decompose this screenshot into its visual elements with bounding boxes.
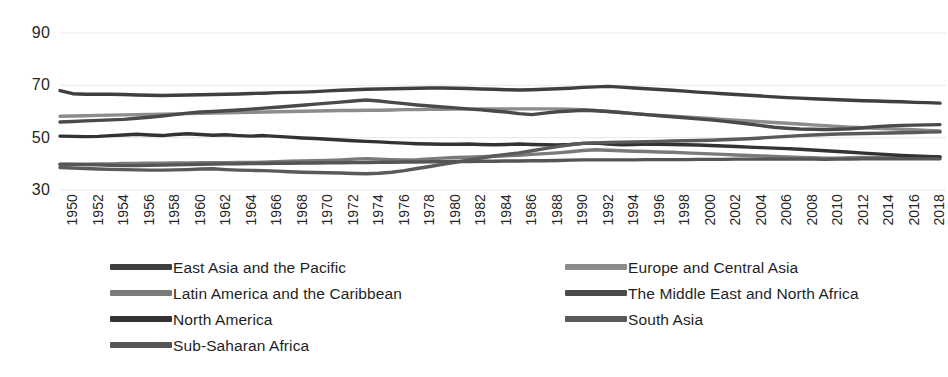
x-tick-label-1986: 1986 <box>524 194 538 226</box>
legend-label: Sub-Saharan Africa <box>173 337 309 354</box>
x-tick-label-2014: 2014 <box>881 194 895 226</box>
legend-item[interactable]: Sub-Saharan Africa <box>110 334 309 356</box>
legend-item[interactable]: Europe and Central Asia <box>565 256 798 278</box>
legend-swatch-icon <box>110 342 172 348</box>
legend-swatch-icon <box>110 290 172 296</box>
x-tick-label-2010: 2010 <box>830 194 844 226</box>
x-tick-label-2016: 2016 <box>907 194 921 226</box>
x-tick-label-1974: 1974 <box>371 194 385 226</box>
x-tick-label-1960: 1960 <box>193 194 207 226</box>
x-tick-label-1968: 1968 <box>295 194 309 226</box>
legend-item[interactable]: South Asia <box>565 308 703 330</box>
x-tick-label-1982: 1982 <box>473 194 487 226</box>
x-tick-label-1966: 1966 <box>269 194 283 226</box>
legend-label: Latin America and the Caribbean <box>173 285 402 302</box>
legend-swatch-icon <box>565 316 627 322</box>
legend-label: The Middle East and North Africa <box>628 285 859 302</box>
x-tick-label-2008: 2008 <box>805 194 819 226</box>
x-tick-label-1994: 1994 <box>626 194 640 226</box>
x-tick-label-1970: 1970 <box>320 194 334 226</box>
x-axis: 1950195219541956195819601962196419661968… <box>0 190 948 254</box>
legend-item[interactable]: Latin America and the Caribbean <box>110 282 402 304</box>
legend-swatch-icon <box>110 264 172 270</box>
chart-legend: East Asia and the PacificEurope and Cent… <box>0 256 948 376</box>
y-axis: 30507090 <box>0 0 50 200</box>
series-line-5 <box>60 132 940 174</box>
x-tick-label-1998: 1998 <box>677 194 691 226</box>
x-tick-label-2006: 2006 <box>779 194 793 226</box>
x-tick-label-1976: 1976 <box>397 194 411 226</box>
x-tick-label-1958: 1958 <box>167 194 181 226</box>
legend-swatch-icon <box>110 316 172 322</box>
x-tick-label-2018: 2018 <box>932 194 946 226</box>
legend-item[interactable]: East Asia and the Pacific <box>110 256 346 278</box>
x-tick-label-1980: 1980 <box>448 194 462 226</box>
x-tick-label-2004: 2004 <box>754 194 768 226</box>
plot-area <box>0 0 948 200</box>
x-tick-label-1952: 1952 <box>91 194 105 226</box>
line-chart: 30507090 1950195219541956195819601962196… <box>0 0 948 377</box>
legend-label: North America <box>173 311 273 328</box>
legend-item[interactable]: North America <box>110 308 273 330</box>
x-tick-label-1956: 1956 <box>142 194 156 226</box>
x-tick-label-1962: 1962 <box>218 194 232 226</box>
x-tick-label-1996: 1996 <box>652 194 666 226</box>
legend-label: South Asia <box>628 311 703 328</box>
x-tick-label-1992: 1992 <box>601 194 615 226</box>
x-tick-label-2012: 2012 <box>856 194 870 226</box>
x-tick-label-1972: 1972 <box>346 194 360 226</box>
series-line-0 <box>60 86 940 103</box>
plot-svg <box>0 0 948 200</box>
x-tick-label-2000: 2000 <box>703 194 717 226</box>
y-tick-label-50: 50 <box>4 130 50 146</box>
x-tick-label-1978: 1978 <box>422 194 436 226</box>
x-tick-label-1988: 1988 <box>550 194 564 226</box>
legend-label: East Asia and the Pacific <box>173 259 346 276</box>
x-tick-label-1984: 1984 <box>499 194 513 226</box>
series-lines <box>60 86 940 173</box>
legend-item[interactable]: The Middle East and North Africa <box>565 282 859 304</box>
x-tick-label-2002: 2002 <box>728 194 742 226</box>
x-tick-label-1990: 1990 <box>575 194 589 226</box>
y-tick-label-90: 90 <box>4 25 50 41</box>
x-tick-label-1950: 1950 <box>65 194 79 226</box>
x-tick-label-1964: 1964 <box>244 194 258 226</box>
legend-label: Europe and Central Asia <box>628 259 798 276</box>
legend-swatch-icon <box>565 264 627 270</box>
x-tick-label-1954: 1954 <box>116 194 130 226</box>
legend-swatch-icon <box>565 290 627 296</box>
y-tick-label-70: 70 <box>4 77 50 93</box>
